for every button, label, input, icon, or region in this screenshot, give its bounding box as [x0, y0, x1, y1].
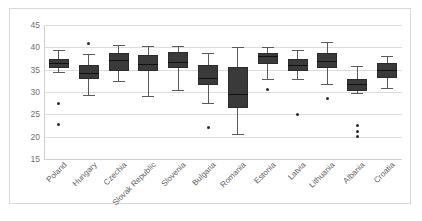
box-plot-slovak-republic	[134, 25, 164, 159]
box-iqr	[228, 67, 248, 107]
whisker-cap-low	[172, 90, 184, 91]
median-line	[347, 84, 367, 85]
median-line	[49, 63, 69, 64]
whisker-line	[148, 46, 149, 96]
x-label-text: Lithuania	[308, 161, 337, 190]
box-plot-czechia	[104, 25, 134, 159]
outlier-point	[266, 88, 269, 91]
gridline-15	[44, 159, 402, 160]
box-iqr	[258, 53, 278, 64]
whisker-cap-high	[321, 42, 333, 43]
plot-area	[44, 25, 402, 159]
whisker-cap-high	[202, 53, 214, 54]
box-iqr	[198, 65, 218, 85]
whisker-cap-high	[172, 46, 184, 47]
median-line	[109, 60, 129, 61]
x-label-estonia: Estonia	[253, 161, 278, 186]
box-iqr	[168, 52, 188, 68]
median-line	[317, 61, 337, 62]
box-plot-croatia	[372, 25, 402, 159]
whisker-cap-low	[351, 93, 363, 94]
box-plot-hungary	[74, 25, 104, 159]
x-label-croatia: Croatia	[373, 161, 397, 185]
median-line	[198, 78, 218, 79]
y-tick-label-25: 25	[14, 110, 40, 119]
whisker-cap-low	[321, 84, 333, 85]
box-plot-estonia	[253, 25, 283, 159]
median-line	[79, 73, 99, 74]
median-line	[138, 64, 158, 65]
x-label-text: Poland	[45, 161, 68, 184]
box-plot-bulgaria	[193, 25, 223, 159]
whisker-cap-low	[113, 81, 125, 82]
median-line	[377, 70, 397, 71]
x-label-text: Estonia	[253, 161, 278, 186]
x-label-text: Bulgaria	[191, 161, 217, 187]
x-label-hungary: Hungary	[71, 161, 98, 188]
whisker-cap-high	[292, 50, 304, 51]
box-plot-romania	[223, 25, 253, 159]
chart-frame: 45403530252015 PolandHungaryCzechiaSlova…	[9, 8, 411, 204]
box-iqr	[138, 55, 158, 71]
x-label-bulgaria: Bulgaria	[191, 161, 217, 187]
outlier-point	[207, 126, 210, 129]
y-tick-label-45: 45	[14, 21, 40, 30]
whisker-cap-low	[53, 72, 65, 73]
x-label-slovenia: Slovenia	[161, 161, 188, 188]
x-label-text: Hungary	[71, 161, 98, 188]
x-label-lithuania: Lithuania	[308, 161, 337, 190]
x-label-text: Latvia	[286, 161, 307, 182]
whisker-cap-high	[262, 47, 274, 48]
x-label-czechia: Czechia	[102, 161, 128, 187]
whisker-cap-low	[142, 96, 154, 97]
x-label-text: Slovenia	[161, 161, 188, 188]
whisker-cap-low	[232, 134, 244, 135]
x-label-text: Croatia	[373, 161, 397, 185]
x-label-text: Czechia	[102, 161, 128, 187]
x-label-poland: Poland	[45, 161, 68, 184]
box-plot-slovenia	[163, 25, 193, 159]
outlier-point	[87, 42, 90, 45]
x-label-text: Albania	[342, 161, 367, 186]
whisker-cap-low	[262, 79, 274, 80]
y-tick-label-30: 30	[14, 88, 40, 97]
box-plot-latvia	[283, 25, 313, 159]
median-line	[288, 65, 308, 66]
box-iqr	[109, 53, 129, 71]
y-axis-tick-labels: 45403530252015	[10, 25, 40, 159]
whisker-cap-high	[53, 50, 65, 51]
outlier-point	[57, 102, 60, 105]
x-label-text: Romania	[219, 161, 247, 189]
outlier-point	[57, 123, 60, 126]
box-plot-lithuania	[313, 25, 343, 159]
y-tick-label-20: 20	[14, 132, 40, 141]
y-tick-label-35: 35	[14, 65, 40, 74]
whisker-cap-low	[202, 103, 214, 104]
whisker-cap-high	[113, 45, 125, 46]
box-plot-albania	[342, 25, 372, 159]
median-line	[228, 94, 248, 95]
outlier-point	[296, 113, 299, 116]
whisker-cap-high	[142, 46, 154, 47]
x-label-latvia: Latvia	[286, 161, 307, 182]
whisker-cap-low	[83, 95, 95, 96]
x-label-albania: Albania	[342, 161, 367, 186]
whisker-cap-high	[351, 66, 363, 67]
whisker-cap-low	[292, 79, 304, 80]
x-label-romania: Romania	[219, 161, 247, 189]
outlier-point	[326, 97, 329, 100]
y-tick-label-15: 15	[14, 155, 40, 164]
outlier-point	[356, 135, 359, 138]
median-line	[168, 62, 188, 63]
whisker-cap-high	[232, 47, 244, 48]
x-axis-category-labels: PolandHungaryCzechiaSlovak RepublicSlove…	[44, 161, 402, 221]
whisker-cap-high	[83, 54, 95, 55]
median-line	[258, 56, 278, 57]
outlier-point	[356, 130, 359, 133]
whisker-cap-low	[381, 88, 393, 89]
box-plot-poland	[44, 25, 74, 159]
outlier-point	[356, 124, 359, 127]
whisker-cap-high	[381, 56, 393, 57]
y-tick-label-40: 40	[14, 43, 40, 52]
